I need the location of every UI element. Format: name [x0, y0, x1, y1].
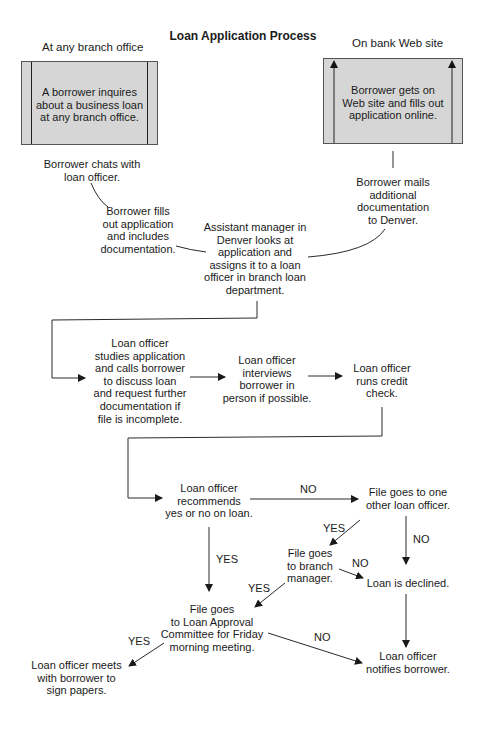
node-online: Borrower gets on Web site and fills out …: [324, 84, 462, 122]
node-interview: Loan officer interviews borrower in pers…: [222, 354, 312, 404]
edge-label-branch-no: NO: [352, 557, 369, 569]
node-recommend: Loan officer recommends yes or no on loa…: [160, 482, 258, 520]
edge-label-branch-yes: YES: [248, 582, 270, 594]
node-sign: Loan officer meets with borrower to sign…: [28, 659, 125, 697]
edge-label-committee-no: NO: [314, 631, 331, 643]
arrow-up-icon: [448, 60, 456, 68]
node-study: Loan officer studies application and cal…: [88, 337, 192, 425]
node-credit: Loan officer runs credit check.: [342, 362, 422, 400]
connector-chat-fill: [91, 183, 108, 207]
lane-label-branch: At any branch office: [42, 41, 143, 53]
edge-label-recommend-no: NO: [300, 483, 317, 495]
node-inquire: A borrower inquires about a business loa…: [22, 86, 157, 124]
edge-label-other-yes: YES: [323, 522, 345, 534]
node-chat: Borrower chats with loan officer.: [32, 158, 152, 183]
node-notify: Loan officer notifies borrower.: [362, 650, 454, 675]
node-declined: Loan is declined.: [362, 577, 454, 590]
lane-label-website: On bank Web site: [352, 37, 443, 49]
node-committee: File goes to Loan Approval Committee for…: [156, 603, 268, 653]
arrow-up-icon: [330, 60, 338, 68]
edge-label-other-no: NO: [413, 533, 430, 545]
node-assistant: Assistant manager in Denver looks at app…: [198, 221, 312, 297]
connector-branch-declined: [339, 569, 363, 578]
node-other-officer: File goes to one other loan officer.: [358, 486, 458, 511]
edge-label-recommend-yes: YES: [216, 553, 238, 565]
start-box-website: Borrower gets on Web site and fills out …: [323, 58, 463, 144]
start-box-branch: A borrower inquires about a business loa…: [21, 61, 158, 145]
connector-mail-assistant: [308, 229, 385, 257]
node-mail: Borrower mails additional documentation …: [340, 176, 446, 226]
edge-label-committee-yes: YES: [128, 635, 150, 647]
node-fill: Borrower fills out application and inclu…: [98, 205, 178, 255]
node-branch-manager: File goes to branch manager.: [280, 547, 340, 585]
